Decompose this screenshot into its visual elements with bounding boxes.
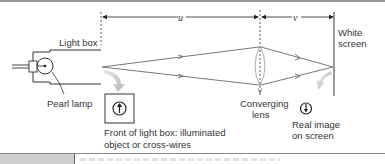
- lens-label-2: lens: [252, 109, 270, 120]
- caption-tab: [0, 154, 75, 164]
- screen-label-2: screen: [338, 38, 367, 49]
- lens-experiment-diagram: u v White screen Light box Pearl lamp Co…: [0, 0, 385, 164]
- lamp-filament-dot: [44, 65, 47, 68]
- pearl-lamp-label: Pearl lamp: [47, 98, 92, 109]
- cropped-caption-band: [0, 153, 385, 164]
- ray-upper-2: [261, 47, 333, 67]
- front-label-1: Front of light box: illuminated: [104, 127, 225, 138]
- light-box-label: Light box: [59, 37, 98, 48]
- image-label-2: on screen: [292, 130, 334, 141]
- lens-label-1: Converging: [240, 98, 289, 109]
- ray-upper-1: [102, 47, 259, 67]
- cropped-caption-text: [80, 158, 280, 161]
- ray-lower-1: [102, 67, 259, 85]
- screen-label-1: White: [338, 27, 362, 38]
- image-view-pointer-icon: [317, 71, 332, 90]
- image-label-1: Real image: [292, 119, 340, 130]
- v-label: v: [293, 12, 298, 23]
- front-view-pointer-icon: [104, 70, 125, 92]
- u-label: u: [178, 12, 183, 23]
- lamp-base: [29, 61, 37, 72]
- front-label-2: object or cross-wires: [104, 139, 191, 150]
